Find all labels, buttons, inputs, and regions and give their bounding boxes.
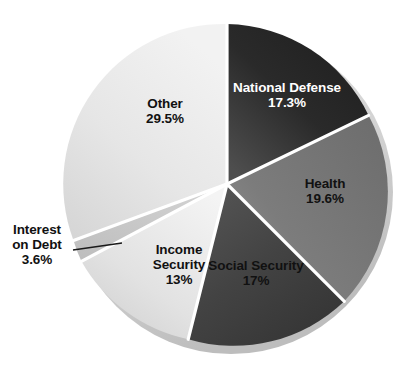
pie-chart-canvas (0, 0, 414, 369)
pie-chart: National Defense 17.3% Health 19.6% Soci… (0, 0, 414, 369)
